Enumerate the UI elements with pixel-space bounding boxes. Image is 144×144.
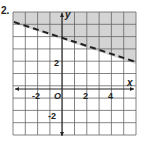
x-tick-label: 2	[83, 92, 88, 101]
y-axis-label: y	[65, 10, 71, 20]
x-tick-label: 4	[108, 92, 113, 101]
origin-label: O	[54, 92, 61, 101]
x-axis-label: x	[127, 78, 133, 88]
coordinate-graph	[0, 0, 144, 144]
y-tick-label: -2	[48, 112, 56, 121]
y-tick-label: 2	[54, 59, 59, 68]
x-tick-label: -2	[32, 92, 40, 101]
x-axis-arrow-left-icon	[15, 87, 19, 91]
